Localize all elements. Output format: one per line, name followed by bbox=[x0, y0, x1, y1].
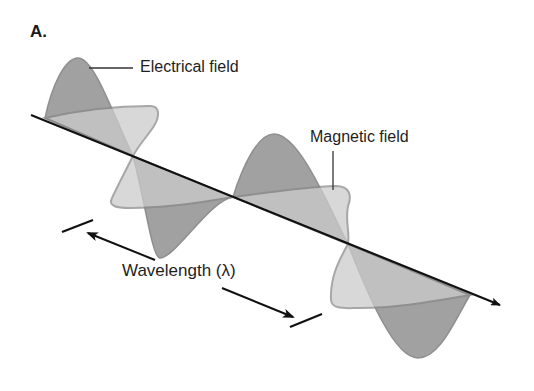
panel-label: A. bbox=[30, 22, 47, 42]
wavelength-tick-left bbox=[62, 220, 93, 232]
magnetic-field-label: Magnetic field bbox=[310, 128, 409, 146]
electromagnetic-wave-figure: A. Electrical field Magnetic field Wavel… bbox=[0, 0, 534, 391]
wavelength-arrow-left-icon bbox=[88, 233, 155, 260]
wavelength-arrow-right-icon bbox=[222, 288, 293, 317]
electric-field-label: Electrical field bbox=[140, 58, 239, 76]
wavelength-label: Wavelength (λ) bbox=[122, 261, 236, 281]
wave-diagram bbox=[0, 0, 534, 391]
wavelength-tick-right bbox=[290, 314, 322, 327]
